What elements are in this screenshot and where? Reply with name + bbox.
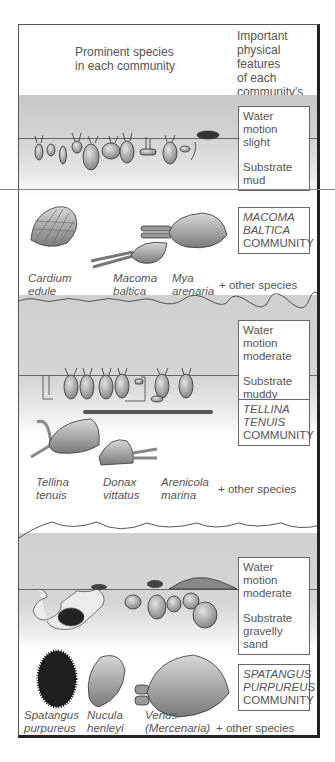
species-label: Cardium edule	[28, 272, 71, 298]
species-line: vittatus	[103, 489, 139, 502]
species-line: baltica	[113, 285, 157, 298]
habitat-box-spatangus: Water motion moderate Substrate gravelly…	[238, 557, 310, 655]
cardium-edule-icon	[31, 207, 77, 247]
species-label: Macoma baltica	[113, 272, 157, 298]
species-line: (Mercenaria)	[145, 722, 210, 735]
community-name-line: TELLINA	[243, 403, 305, 416]
community-name-line: MACOMA	[243, 211, 305, 224]
species-line: fasciatus	[145, 735, 210, 738]
water-motion-label: Water motion	[243, 561, 305, 587]
species-line: Cardium	[28, 272, 71, 285]
species-line: edule	[28, 285, 71, 298]
spatangus-purpureus-icon	[38, 651, 76, 707]
species-line: Donax	[103, 476, 139, 489]
other-species-label: + other species	[218, 483, 296, 496]
spatangus-buried-bivalves-icon	[125, 577, 237, 628]
community-name-macoma: MACOMA BALTICA COMMUNITY	[238, 207, 310, 254]
macoma-baltica-icon	[91, 242, 167, 267]
community-word: COMMUNITY	[243, 694, 305, 707]
habitat-box-macoma: Water motion slight Substrate mud	[238, 106, 310, 191]
community-name-line: TENUIS	[243, 416, 305, 429]
substrate-value: gravelly sand	[243, 625, 305, 651]
species-line: Macoma	[113, 272, 157, 285]
species-label: Arenicola marina	[161, 476, 209, 502]
community-word: COMMUNITY	[243, 429, 305, 442]
substrate-value: mud	[243, 174, 305, 187]
species-line: Venus	[145, 709, 210, 722]
spatangus-burrow-icon	[33, 589, 104, 630]
water-motion-label: Water motion	[243, 110, 305, 136]
community-name-line: SPATANGUS	[243, 668, 305, 681]
species-line: Mya	[172, 272, 214, 285]
other-species-label: + other species	[216, 722, 294, 735]
species-line: Arenicola	[161, 476, 209, 489]
species-line: Tellina	[36, 476, 69, 489]
species-label: Venus (Mercenaria) fasciatus	[145, 709, 210, 738]
water-motion-value: moderate	[243, 587, 305, 600]
tellina-tenuis-icon	[31, 419, 99, 457]
species-label: Spatangus purpureus	[24, 709, 79, 735]
community-name-spatangus: SPATANGUS PURPUREUS COMMUNITY	[238, 664, 310, 711]
species-label: Nucula henleyi	[87, 709, 123, 735]
donax-vittatus-icon	[99, 440, 157, 465]
community-word: COMMUNITY	[243, 237, 305, 250]
community-name-line: PURPUREUS	[243, 681, 305, 694]
macoma-buried-bivalves-icon	[35, 131, 219, 170]
water-motion-label: Water motion	[243, 324, 305, 350]
species-line: marina	[161, 489, 209, 502]
substrate-label: Substrate	[243, 375, 305, 388]
community-name-line: BALTICA	[243, 224, 305, 237]
species-label: Mya arenaria	[172, 272, 214, 298]
nucula-henleyi-icon	[88, 656, 125, 707]
species-line: arenaria	[172, 285, 214, 298]
water-motion-value: moderate	[243, 350, 305, 363]
substrate-label: Substrate	[243, 161, 305, 174]
species-label: Tellina tenuis	[36, 476, 69, 502]
species-line: Nucula	[87, 709, 123, 722]
species-line: henleyi	[87, 722, 123, 735]
species-label: Donax vittatus	[103, 476, 139, 502]
overlay-rule-line	[0, 189, 335, 190]
species-line: tenuis	[36, 489, 69, 502]
wave-line	[19, 522, 320, 538]
tellina-buried-bivalves-icon	[64, 368, 193, 402]
arenicola-marina-icon	[83, 410, 213, 414]
crab-icon	[91, 580, 163, 590]
species-line: Spatangus	[24, 709, 79, 722]
venus-fasciatus-icon	[135, 655, 229, 717]
species-line: purpureus	[24, 722, 79, 735]
water-motion-value: slight	[243, 136, 305, 149]
substrate-label: Substrate	[243, 612, 305, 625]
diagram-frame: Prominent species in each community Impo…	[18, 24, 320, 738]
community-name-tellina: TELLINA TENUIS COMMUNITY	[238, 399, 310, 446]
other-species-label: + other species	[219, 279, 297, 292]
